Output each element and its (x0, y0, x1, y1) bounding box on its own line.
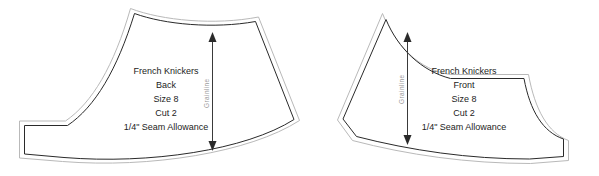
label-line-back-0: French Knickers (133, 66, 199, 76)
grainline-label-back: Grainline (203, 78, 210, 108)
pattern-sheet: Grainline French Knickers Back Size 8 Cu… (0, 0, 599, 176)
pattern-drawing: Grainline French Knickers Back Size 8 Cu… (0, 0, 599, 176)
label-line-front-3: Cut 2 (453, 108, 475, 118)
label-line-back-1: Back (156, 80, 177, 90)
pattern-piece-front[interactable]: Grainline French Knickers Front Size 8 C… (338, 14, 569, 164)
pattern-piece-back[interactable]: Grainline French Knickers Back Size 8 Cu… (20, 9, 300, 164)
grainline-arrowhead-top-front (404, 32, 412, 42)
label-line-back-3: Cut 2 (155, 108, 177, 118)
label-line-front-4: 1/4" Seam Allowance (422, 122, 507, 132)
grainline-label-front: Grainline (398, 74, 405, 104)
label-line-back-2: Size 8 (153, 94, 178, 104)
label-line-front-1: Front (453, 80, 475, 90)
label-line-back-4: 1/4" Seam Allowance (124, 122, 209, 132)
label-line-front-0: French Knickers (431, 66, 497, 76)
label-line-front-2: Size 8 (451, 94, 476, 104)
